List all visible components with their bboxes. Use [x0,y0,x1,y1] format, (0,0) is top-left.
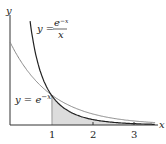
curve-label-lhs: y = [36,23,54,34]
y-axis-label: y [5,5,12,16]
tick-label-3: 3 [131,129,137,140]
curve-exp [10,42,155,123]
plot: 1 2 3 x y y = e−x x y = e−x [0,0,166,144]
curve-label-exp: y = e−x [14,93,51,105]
x-axis-label: x [159,119,165,130]
curve-exp-over-x [30,21,155,124]
diagram: 1 2 3 x y y = e−x x y = e−x [0,0,166,144]
curve-label-den: x [58,29,64,40]
tick-label-1: 1 [49,129,55,140]
curve-label-num: e−x [54,17,69,28]
tick-label-2: 2 [90,129,96,140]
